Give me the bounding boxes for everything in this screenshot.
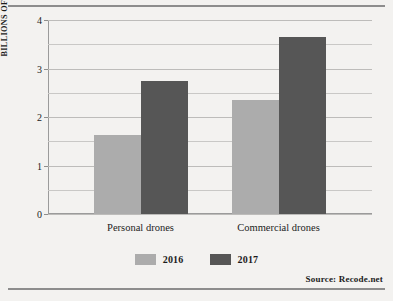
bar-personal-drones-2016 bbox=[94, 135, 141, 214]
plot-area: 01234 bbox=[48, 20, 372, 214]
y-axis-tick-mark bbox=[44, 20, 48, 21]
gridline bbox=[48, 214, 372, 215]
legend-item-2017[interactable]: 2017 bbox=[210, 254, 259, 265]
y-axis-tick-label: 0 bbox=[37, 209, 42, 220]
gridline bbox=[48, 20, 372, 21]
bar-personal-drones-2017 bbox=[141, 81, 188, 214]
y-axis-tick-mark bbox=[44, 166, 48, 167]
y-axis-tick-mark bbox=[44, 69, 48, 70]
legend-label-2017: 2017 bbox=[238, 254, 259, 265]
source-note: Source: Recode.net bbox=[306, 274, 383, 284]
legend-label-2016: 2016 bbox=[163, 254, 184, 265]
chart-figure: BILLIONS OF DOLLARS 01234 Personal drone… bbox=[0, 0, 393, 301]
bottom-rule bbox=[8, 288, 385, 290]
legend: 20162017 bbox=[0, 254, 393, 265]
legend-swatch-2016 bbox=[135, 254, 156, 265]
legend-swatch-2017 bbox=[210, 254, 231, 265]
y-axis-tick-mark bbox=[44, 214, 48, 215]
top-rule bbox=[8, 5, 385, 7]
y-axis-tick-label: 1 bbox=[37, 160, 42, 171]
y-axis-tick-mark bbox=[44, 117, 48, 118]
x-axis-label-commercial-drones: Commercial drones bbox=[209, 222, 349, 233]
legend-item-2016[interactable]: 2016 bbox=[135, 254, 184, 265]
x-axis-label-personal-drones: Personal drones bbox=[71, 222, 211, 233]
y-axis-tick-label: 2 bbox=[37, 112, 42, 123]
y-axis-title: BILLIONS OF DOLLARS bbox=[0, 0, 9, 76]
bar-commercial-drones-2017 bbox=[279, 37, 326, 214]
y-axis-tick-label: 4 bbox=[37, 15, 42, 26]
bar-commercial-drones-2016 bbox=[232, 100, 279, 214]
y-axis-tick-label: 3 bbox=[37, 63, 42, 74]
